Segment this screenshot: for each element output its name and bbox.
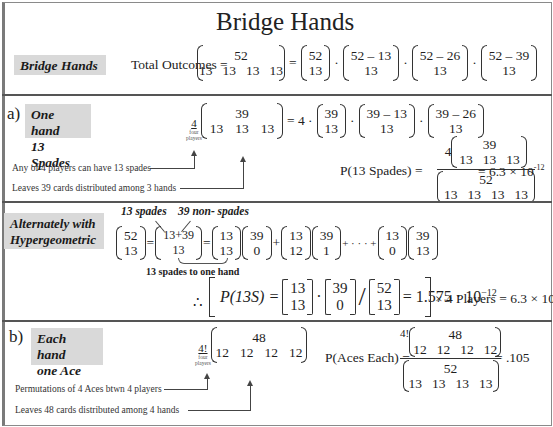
four-players-coef: 4 four players [186,118,202,141]
binomial-term: 390 [242,226,272,260]
section-label-line: Hypergeometric [10,232,98,248]
dot-operator: · [350,113,355,128]
binomial-39-0: 390 [325,279,356,315]
multinomial-bottom: 13 [199,63,213,78]
binomial-bottom: 13 [502,63,516,78]
binomial-top: 52 [377,280,392,297]
binomial-top: 39 [325,106,339,121]
binomial-top: 52 [124,228,138,243]
multinomial-bottom: 12 [265,345,279,360]
pointer-line [180,188,243,189]
pointer-line [188,410,250,411]
binomial-bottom: 13 [416,243,430,258]
total-outcomes-equation: 52 13 13 13 13 = 5213 · 52 – 1313 · 52 –… [197,45,537,81]
multinomial-bottom: 13 [444,187,458,202]
multinomial-top: 52 [234,48,248,63]
binomial-top: 13 [290,280,305,297]
section-label-line: one Ace [37,363,97,379]
coef-value: 4! [195,343,211,354]
binomial-top: 39 [333,280,348,297]
pointer-line [243,159,244,189]
binomial-top: 52 [309,48,323,63]
binomial-top: 39 – 26 [436,106,477,121]
page-title: Bridge Hands [216,8,354,36]
multinomial-top: 52 [444,361,458,376]
coef-value: 4 [186,118,202,129]
binomial-bottom: 12 [289,243,303,258]
binomial-13-13: 1313 [282,279,313,315]
multinomial-48: 48 12 12 12 12 [211,327,307,363]
multinomial-top: 39 [235,106,249,121]
annotation-permutations-of-aces: Permutations of 4 Aces btwn 4 players [15,384,162,394]
multinomial-39: 39 13 13 13 [201,103,283,139]
p-13s-times-4-players: × 4 Players = 6.3 × 10-12 [435,290,553,307]
times-4-players: × 4 Players = 6.3 × 10 [435,291,553,306]
left-bracket [209,277,215,317]
binomial-bottom: 13 [380,121,394,136]
multinomial-bottom: 12 [240,345,254,360]
ellipsis: + · · · + [342,237,376,249]
binomial-bottom: 13 [290,297,305,314]
fraction-coef: 4! [400,327,409,339]
four-factorial-coef: 4! four players [195,343,211,366]
binomial-bottom: 0 [336,297,344,314]
multinomial-bottom: 12 [216,345,230,360]
dot-operator: · [472,55,477,70]
underbrace-icon [178,258,228,264]
binomial-factor: 52 – 1313 [343,45,400,81]
therefore-symbol: ∴ [193,293,203,311]
binomial-factor: 5213 [301,45,331,81]
multinomial-bottom: 13 [456,376,470,391]
binomial-bottom: 13 [325,121,339,136]
binomial-factor: 3913 [317,104,347,138]
binomial-term: 130 [378,226,408,260]
binomial-factor: 52 – 3913 [481,45,538,81]
section-label-text: Bridge Hands [20,58,98,73]
section-label-line: Each hand [37,331,97,363]
binomial-top: 52 – 26 [420,48,461,63]
multinomial-bottom: 13 [409,376,423,391]
multinomial-top: 48 [448,327,462,342]
arrow-up-icon [191,150,197,156]
multinomial-bottom: 13 [515,187,529,202]
p-13s-label: P(13S) = [220,288,279,306]
multinomial-bottom: 13 [468,187,482,202]
multinomial-top: 39 [483,137,497,152]
annotation-leaves-39-cards: Leaves 39 cards distributed among 3 hand… [12,183,176,193]
p-aces-each-result: = .105 [495,350,530,366]
part-b-marker: b) [9,327,23,347]
binomial-top: 39 – 13 [367,106,408,121]
equals-sign: = [289,55,297,70]
multinomial-bottom: 13 [223,63,237,78]
binomial-bottom: 13 [377,297,392,314]
section-label-hypergeometric: Alternately with Hypergeometric [4,213,104,249]
binomial-factor: 39 – 2613 [428,104,485,138]
multinomial-bottom: 13 [261,121,275,136]
result-exponent: -12 [534,163,545,172]
binomial-top: 13 [386,228,400,243]
binomial-bottom: 13 [220,243,234,258]
binomial-factor: 39 – 1313 [359,104,416,138]
binomial-top: 13 [220,228,234,243]
section-label-line: One hand [31,107,85,139]
multinomial-bottom: 13 [246,63,260,78]
binomial-bottom: 13 [173,243,185,258]
p-13-spades-result: = 6.3 × 10-12 [478,163,544,180]
binomial-bottom: 13 [124,243,138,258]
binomial-bottom: 13 [433,63,447,78]
binomial-bottom: 0 [389,243,396,258]
binomial-top: 52 – 13 [351,48,392,63]
coef-note: players [195,360,211,366]
p-aces-each-label: P(Aces Each) = [325,350,410,366]
binomial-factor: 52 – 2613 [412,45,469,81]
binomial-term: 1313 [212,226,242,260]
equals-sign: = [203,235,211,251]
section-label-each-hand: Each hand one Ace [31,328,103,365]
multinomial-bottom: 13 [432,376,446,391]
multinomial-bottom: 12 [437,342,451,357]
binomial-top: 39 [250,228,264,243]
binomial-term: 1312 [281,226,311,260]
multinomial-bottom: 12 [413,342,427,357]
binomial-bottom: 1 [323,243,330,258]
section-label-line: Alternately with [10,216,98,232]
